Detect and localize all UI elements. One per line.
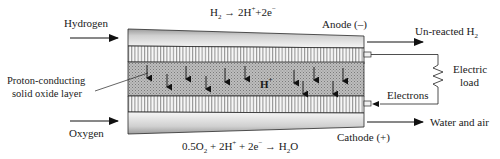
cathode-terminal [364,101,371,106]
cathode-interface-layer [128,96,364,113]
cathode-reaction-equation: 0.5O2 + 2H+ + 2e− → H2O [182,139,298,155]
anode-terminal [364,52,371,57]
proton-conducting-layer [128,62,364,96]
oxygen-label: Oxygen [69,127,104,139]
electric-load-label-line1: Electric [453,63,487,75]
cathode-label: Cathode (+) [337,131,390,144]
cathode-layer [128,112,364,134]
electric-load-label-line2: load [460,76,479,88]
layer-label-line2: solid oxide layer [12,88,82,99]
electron-arrowhead-icon [372,101,379,107]
fuel-cell-diagram: H+ Hydrogen Oxygen Proton-conducting sol… [0,0,500,159]
anode-layer [128,29,364,48]
anode-label: Anode (–) [322,18,367,31]
layer-label-line1: Proton-conducting [7,75,86,86]
anode-reaction-equation: H2 → 2H++2e− [210,5,276,21]
unreacted-h2-label: Un-reacted H2 [415,25,479,40]
electrons-label: Electrons [387,89,429,101]
hydrogen-label: Hydrogen [64,17,108,29]
resistor-icon [433,65,443,87]
anode-interface-layer [128,46,364,64]
water-air-label: Water and air [430,116,489,128]
